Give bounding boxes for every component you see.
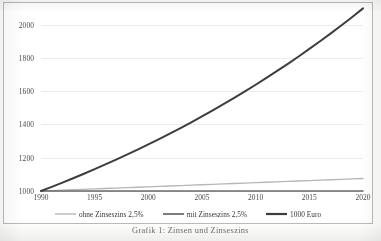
- x-axis: 1990199520002005201020152020: [41, 193, 363, 205]
- series-line: [41, 179, 363, 191]
- y-tick-label: 1600: [19, 87, 34, 96]
- y-tick-label: 1400: [19, 120, 34, 129]
- x-tick-label: 1995: [87, 193, 102, 202]
- legend-swatch-icon: [55, 211, 76, 217]
- x-tick-label: 2020: [355, 193, 370, 202]
- figure-caption: Grafik 1: Zinsen und Zinseszins: [0, 226, 381, 241]
- x-tick-label: 2005: [194, 193, 209, 202]
- legend-label: ohne Zinseszins 2,5%: [79, 210, 144, 219]
- legend-item-mit-zinseszins[interactable]: mit Zinseszins 2,5%: [163, 210, 247, 219]
- y-tick-label: 2000: [19, 20, 34, 29]
- plot-area: [41, 8, 363, 191]
- chart-legend: ohne Zinseszins 2,5% mit Zinseszins 2,5%…: [3, 207, 373, 221]
- series-line: [41, 8, 363, 191]
- y-tick-label: 1200: [19, 153, 34, 162]
- y-axis: 100012001400160018002000: [0, 8, 38, 191]
- legend-label: mit Zinseszins 2,5%: [187, 210, 247, 219]
- legend-label: 1000 Euro: [290, 210, 321, 219]
- chart-figure: 100012001400160018002000 199019952000200…: [0, 0, 381, 241]
- legend-swatch-icon: [163, 211, 184, 217]
- x-tick-label: 2010: [248, 193, 263, 202]
- y-tick-label: 1000: [19, 187, 34, 196]
- x-tick-label: 2015: [302, 193, 317, 202]
- y-tick-label: 1800: [19, 53, 34, 62]
- legend-swatch-icon: [266, 211, 287, 217]
- series-layer: [41, 8, 363, 191]
- x-tick-label: 1990: [33, 193, 48, 202]
- legend-item-1000-euro[interactable]: 1000 Euro: [266, 210, 321, 219]
- legend-item-ohne-zinseszins[interactable]: ohne Zinseszins 2,5%: [55, 210, 144, 219]
- x-tick-label: 2000: [141, 193, 156, 202]
